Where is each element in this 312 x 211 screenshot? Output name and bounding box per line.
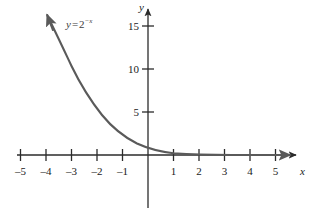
plot-canvas: [0, 0, 312, 211]
exponential-graph-figure: y=2−x x y –5 –4 –3 –2 –1 1 2 3 4 5 5 10 …: [0, 0, 312, 211]
x-tick-label--2: –2: [92, 166, 103, 177]
exponential-curve: [47, 15, 290, 155]
equation-exponent: −x: [85, 17, 93, 25]
x-tick-label-3: 3: [222, 166, 228, 177]
y-tick-label-15: 15: [119, 21, 139, 32]
x-axis-label: x: [300, 166, 305, 177]
curve-equation-label: y=2−x: [66, 19, 92, 30]
x-tick-label-5: 5: [273, 166, 279, 177]
x-tick-label-2: 2: [196, 166, 202, 177]
x-tick-label--4: –4: [41, 166, 52, 177]
y-tick-label-10: 10: [119, 64, 139, 75]
x-tick-label-1: 1: [171, 166, 177, 177]
x-tick-label--5: –5: [15, 166, 26, 177]
x-tick-label-4: 4: [247, 166, 253, 177]
y-axis-label: y: [139, 2, 144, 13]
equation-equals: =: [71, 18, 79, 30]
x-tick-label--3: –3: [66, 166, 77, 177]
x-tick-label--1: –1: [117, 166, 128, 177]
y-axis: [142, 9, 154, 208]
y-tick-label-5: 5: [125, 107, 139, 118]
